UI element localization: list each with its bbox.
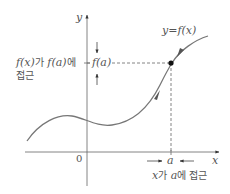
bottom-note: x가 a에 접근 — [152, 170, 207, 181]
bottom-note-ga: 가 — [158, 170, 167, 181]
left-note-line2: 접근 — [16, 71, 34, 81]
curve-arrow-down-icon — [177, 48, 184, 57]
point-a-fa — [168, 60, 173, 65]
left-note-fx: f(x) — [16, 56, 35, 69]
curve-label: y=f(x) — [162, 25, 196, 36]
left-note-fa: f(a) — [47, 56, 66, 69]
bottom-note-rest: 에 접근 — [177, 170, 207, 181]
a-label: a — [167, 155, 174, 166]
y-axis-label: y — [76, 12, 82, 23]
fa-label: f(a) — [91, 57, 112, 68]
origin-label: 0 — [76, 154, 82, 164]
left-note-ga: 가 — [35, 57, 44, 68]
left-note-e: 에 — [67, 57, 76, 68]
left-note: f(x)가 f(a)에 — [16, 57, 76, 68]
x-axis-label: x — [212, 155, 218, 166]
